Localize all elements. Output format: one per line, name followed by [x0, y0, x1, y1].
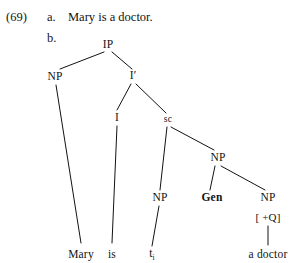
- tree-node-gen: Gen: [201, 192, 222, 204]
- tree-node-np-tr: NP: [152, 192, 167, 204]
- tree-edge: [160, 127, 167, 190]
- tree-edge: [60, 52, 104, 69]
- tree-terminal-t-mary: Mary: [68, 249, 94, 261]
- tree-node-np-subj: NP: [47, 71, 62, 83]
- tree-edge: [112, 52, 132, 69]
- tree-branches: [0, 0, 302, 263]
- tree-terminal-t-doctor: a doctor: [249, 249, 288, 261]
- tree-edge: [210, 166, 215, 190]
- tree-edge: [56, 85, 81, 243]
- example-figure: (69) a. Mary is a doctor. b. IPNPI′IscNP…: [0, 0, 302, 263]
- tree-node-i: I: [115, 112, 119, 124]
- tree-node-ibar: I′: [130, 70, 137, 82]
- tree-node-ip: IP: [103, 39, 114, 51]
- tree-terminal-t-trace: ti: [149, 248, 155, 262]
- tree-edge: [112, 126, 117, 243]
- tree-edge: [117, 84, 131, 110]
- tree-node-sc: sc: [164, 115, 172, 125]
- tree-node-np-pred: NP: [210, 152, 225, 164]
- tree-terminal-t-is: is: [108, 249, 116, 261]
- tree-edge: [136, 84, 166, 113]
- tree-node-np-q: NP: [260, 192, 275, 204]
- tree-node-q-feat: [ +Q]: [255, 212, 280, 223]
- tree-edge: [171, 127, 214, 150]
- tree-edge: [221, 166, 265, 190]
- tree-edge: [152, 206, 159, 246]
- trace-index: i: [153, 253, 155, 262]
